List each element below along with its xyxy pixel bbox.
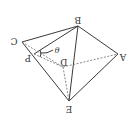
edge-c-e [22,42,69,101]
edge-c-b [22,26,78,42]
edge-d-a [63,54,118,67]
pyramid-diagram: B C A P D E θ [0,0,136,116]
edge-a-e [69,54,118,101]
label-b: B [74,15,81,25]
edge-b-a [78,26,118,54]
label-c: C [10,36,17,46]
edge-p-d [34,54,63,67]
label-a: A [119,52,127,62]
angle-pointer [41,50,53,53]
label-theta: θ [54,45,59,54]
edge-d-e [63,67,69,101]
label-p: P [25,53,31,63]
label-d: D [60,57,67,67]
label-e: E [66,104,73,114]
